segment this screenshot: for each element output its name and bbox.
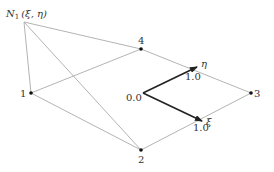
node-label-4: 4: [138, 35, 144, 46]
xi-tick-label: 1.0: [193, 122, 209, 133]
shape-function-diagram: N1(ξ, η) 1 2 3 4 0.0 η 1.0 ξ 1.0: [0, 0, 274, 172]
apex-label: N1(ξ, η): [5, 8, 47, 21]
edge-apex-1: [24, 22, 31, 93]
node-4: [139, 47, 143, 51]
edge-apex-4: [24, 22, 141, 49]
edge-1-2: [31, 93, 141, 150]
eta-tick-label: 1.0: [185, 71, 201, 82]
xi-axis-arrow: [143, 93, 202, 121]
node-3: [249, 91, 253, 95]
node-label-2: 2: [138, 154, 144, 165]
eta-symbol-label: η: [201, 58, 207, 69]
node-label-3: 3: [254, 88, 260, 99]
edge-apex-2: [24, 22, 141, 150]
node-label-1: 1: [20, 88, 26, 99]
node-2: [139, 148, 143, 152]
origin-label: 0.0: [126, 92, 142, 103]
edge-1-4: [31, 49, 141, 93]
node-1: [29, 91, 33, 95]
